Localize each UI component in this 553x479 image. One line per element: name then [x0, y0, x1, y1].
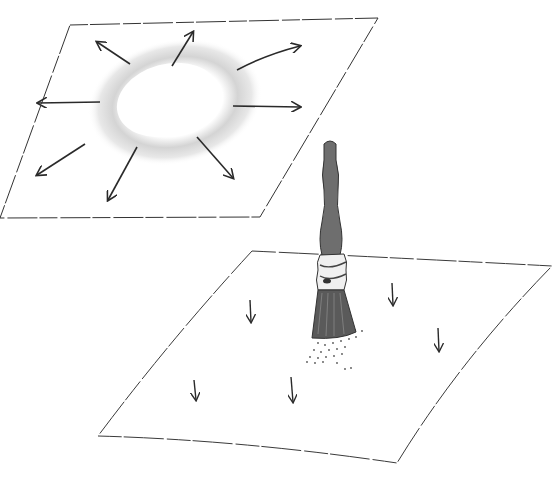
top-sheet: [0, 18, 378, 218]
arrow-left-icon: [38, 102, 100, 103]
arrow-down-icon: [392, 283, 393, 305]
paint-brush-icon: [312, 141, 356, 338]
arrow-down-icon: [438, 328, 439, 351]
illustration-canvas: [0, 0, 553, 479]
brush-handle: [320, 141, 342, 255]
arrow-right-icon: [233, 106, 300, 107]
brush-ferrule: [317, 254, 347, 290]
illustration: [0, 0, 553, 479]
arrow-down-icon: [250, 300, 251, 322]
